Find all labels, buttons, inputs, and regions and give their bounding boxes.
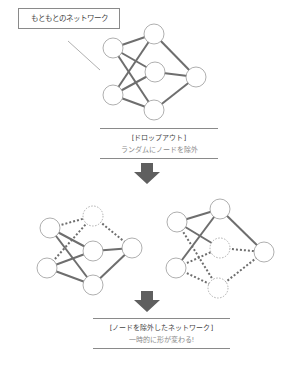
pointer-line bbox=[68, 41, 100, 70]
input-node bbox=[40, 218, 60, 238]
input-node bbox=[37, 258, 57, 278]
input-node bbox=[166, 258, 186, 278]
input-node bbox=[103, 85, 123, 105]
dropped-node bbox=[83, 206, 103, 226]
dropout-network-left bbox=[37, 206, 142, 295]
hidden-node bbox=[144, 100, 164, 120]
down-arrow-icon bbox=[134, 163, 160, 184]
result-description: 一時的に形が変わる! bbox=[93, 334, 230, 346]
hidden-node bbox=[83, 275, 103, 295]
original-network-label: もともとのネットワーク bbox=[18, 8, 120, 29]
hidden-node bbox=[144, 24, 164, 44]
dropout-network-right bbox=[166, 199, 274, 298]
input-node bbox=[103, 38, 123, 58]
dropout-step-box: [ドロップアウト] ランダムにノードを除外 bbox=[100, 128, 218, 159]
dropped-node bbox=[208, 278, 228, 298]
hidden-node bbox=[83, 241, 103, 261]
network-diagram bbox=[0, 0, 294, 366]
dropped-node bbox=[210, 238, 230, 258]
dropout-title: [ドロップアウト] bbox=[100, 132, 218, 144]
output-node bbox=[186, 67, 206, 87]
dropout-description: ランダムにノードを除外 bbox=[100, 144, 218, 156]
down-arrow-icon bbox=[134, 291, 160, 312]
hidden-node bbox=[210, 199, 230, 219]
original-label-text: もともとのネットワーク bbox=[31, 14, 108, 23]
original-nodes bbox=[103, 24, 206, 120]
result-step-box: [ノードを除外したネットワーク] 一時的に形が変わる! bbox=[93, 318, 230, 349]
output-node bbox=[122, 238, 142, 258]
input-node bbox=[167, 212, 187, 232]
hidden-node bbox=[145, 62, 165, 82]
output-node bbox=[254, 242, 274, 262]
result-title: [ノードを除外したネットワーク] bbox=[93, 322, 230, 334]
